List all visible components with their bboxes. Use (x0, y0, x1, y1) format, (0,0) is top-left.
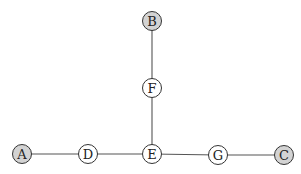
node-g: G (209, 146, 228, 165)
node-label: B (147, 14, 157, 29)
node-label: D (83, 147, 93, 162)
node-label: C (279, 148, 289, 163)
node-label: G (213, 148, 223, 163)
node-label: E (147, 147, 157, 162)
nodes: ABCDEFG (13, 12, 294, 165)
node-label: A (16, 147, 27, 162)
graph-diagram: ABCDEFG (0, 0, 301, 174)
node-label: F (147, 81, 156, 96)
node-b: B (143, 12, 162, 31)
node-c: C (275, 146, 294, 165)
node-e: E (143, 145, 162, 164)
node-a: A (13, 145, 32, 164)
node-f: F (143, 79, 162, 98)
node-d: D (79, 145, 98, 164)
